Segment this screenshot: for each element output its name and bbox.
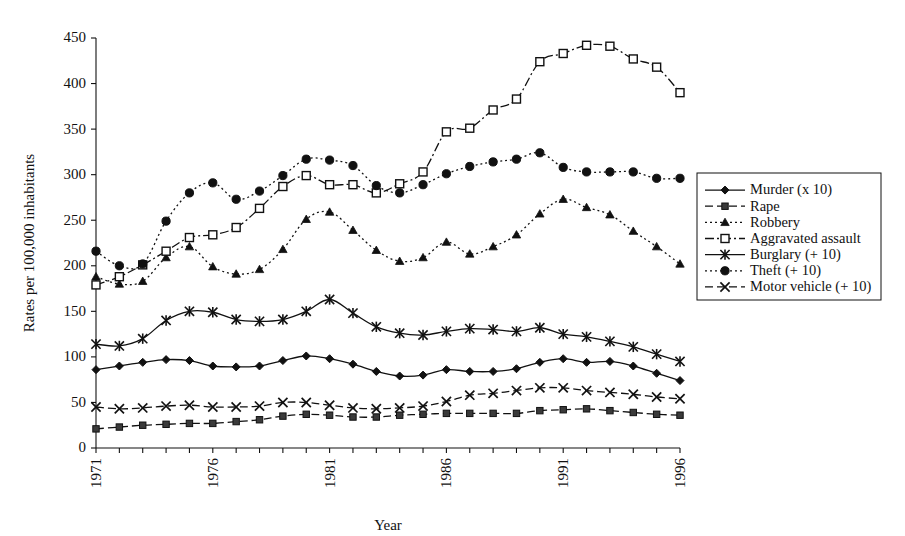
series-murder-x-10: [92, 352, 684, 385]
marker-circle: [326, 156, 334, 164]
marker-circle: [442, 170, 450, 178]
x-tick-label: 1981: [322, 458, 338, 488]
marker-diamond: [653, 369, 661, 377]
marker-square-open: [302, 172, 310, 180]
x-axis-title: Year: [374, 517, 402, 533]
marker-square-open: [232, 224, 240, 232]
legend-item-label: Motor vehicle (+ 10): [750, 278, 871, 295]
marker-diamond: [512, 365, 520, 373]
marker-circle: [185, 189, 193, 197]
marker-diamond: [559, 355, 567, 363]
legend-item-label: Rape: [750, 198, 780, 214]
marker-diamond: [92, 366, 100, 374]
marker-diamond: [419, 371, 427, 379]
marker-square-filled: [186, 420, 192, 426]
marker-square-open: [606, 42, 614, 50]
series-burglary-10: [91, 294, 684, 366]
marker-star: [652, 349, 661, 359]
marker-square-filled: [443, 410, 449, 416]
marker-circle: [629, 168, 637, 176]
marker-star: [675, 356, 684, 366]
marker-triangle: [442, 238, 450, 245]
marker-square-filled: [256, 417, 262, 423]
legend-item-label: Theft (+ 10): [750, 262, 821, 279]
marker-diamond: [629, 362, 637, 370]
marker-square-open: [583, 41, 591, 49]
marker-triangle: [606, 211, 614, 218]
marker-triangle: [209, 262, 217, 269]
marker-circle: [349, 161, 357, 169]
marker-square-open: [442, 128, 450, 136]
marker-circle: [115, 262, 123, 270]
marker-circle: [396, 189, 404, 197]
marker-circle: [139, 260, 147, 268]
x-tick-label: 1971: [88, 458, 104, 488]
marker-circle: [372, 182, 380, 190]
marker-diamond: [349, 360, 357, 368]
x-tick-label: 1976: [205, 458, 221, 489]
marker-square-open: [279, 183, 287, 191]
marker-circle: [255, 187, 263, 195]
marker-triangle: [325, 208, 333, 215]
marker-star: [605, 336, 614, 346]
marker-circle: [419, 181, 427, 189]
x-tick-label: 1986: [438, 458, 454, 489]
series-line: [96, 153, 680, 269]
marker-star: [629, 342, 638, 352]
marker-square-filled: [326, 412, 332, 418]
marker-square-open: [536, 58, 544, 66]
marker-square-filled: [210, 420, 216, 426]
marker-circle: [582, 168, 590, 176]
marker-square-filled: [116, 424, 122, 430]
marker-square-filled: [396, 412, 402, 418]
marker-star: [138, 333, 147, 343]
marker-diamond: [583, 358, 591, 366]
marker-circle: [302, 155, 310, 163]
marker-square-open: [676, 89, 684, 97]
marker-square-open: [629, 55, 637, 63]
marker-triangle: [255, 265, 263, 272]
y-tick-label: 250: [64, 212, 87, 228]
legend-item-label: Aggravated assault: [750, 230, 861, 246]
marker-x: [442, 397, 451, 406]
marker-square-filled: [93, 426, 99, 432]
marker-square-filled: [630, 409, 636, 415]
marker-circle: [162, 217, 170, 225]
marker-star: [348, 308, 357, 318]
marker-circle: [279, 171, 287, 179]
marker-diamond: [466, 367, 474, 375]
marker-square-filled: [583, 406, 589, 412]
marker-circle: [489, 158, 497, 166]
marker-diamond: [279, 357, 287, 365]
marker-triangle: [536, 210, 544, 217]
series-robbery: [92, 195, 684, 287]
marker-square-open: [466, 124, 474, 132]
series-theft-10: [92, 149, 684, 270]
series-line: [96, 356, 680, 381]
y-axis-title: Rates per 100,000 inhabitants: [21, 154, 37, 332]
legend-item-label: Burglary (+ 10): [750, 246, 841, 263]
marker-circle: [466, 162, 474, 170]
y-tick-label: 0: [79, 439, 87, 455]
marker-square-open: [256, 204, 264, 212]
marker-circle: [721, 267, 729, 275]
series-motor-vehicle-10: [91, 383, 684, 413]
marker-diamond: [162, 356, 170, 364]
series-line: [96, 199, 680, 285]
y-tick-label: 50: [71, 394, 86, 410]
marker-square-filled: [537, 407, 543, 413]
marker-diamond: [396, 372, 404, 380]
marker-diamond: [139, 358, 147, 366]
marker-star: [161, 315, 170, 325]
marker-square-filled: [140, 422, 146, 428]
marker-diamond: [489, 367, 497, 375]
marker-circle: [653, 174, 661, 182]
series-line: [96, 409, 680, 429]
y-tick-label: 150: [64, 303, 87, 319]
marker-square-filled: [420, 411, 426, 417]
marker-diamond: [115, 362, 123, 370]
marker-square-open: [721, 235, 729, 243]
marker-triangle: [489, 242, 497, 249]
marker-circle: [92, 247, 100, 255]
marker-square-filled: [233, 418, 239, 424]
